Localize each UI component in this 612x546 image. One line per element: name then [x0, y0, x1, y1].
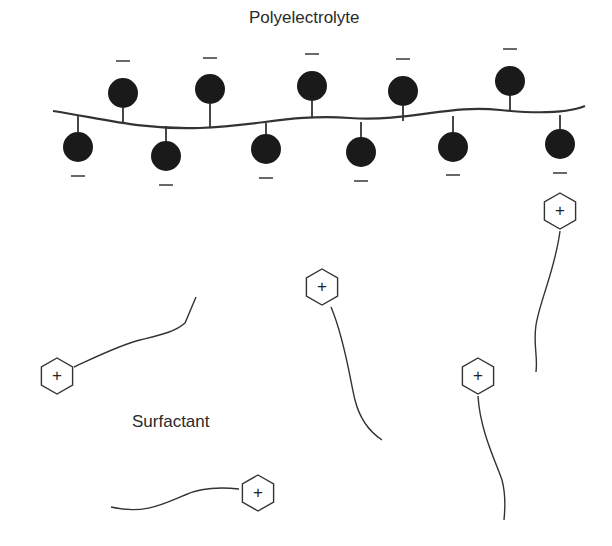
charged-bead	[151, 126, 181, 185]
charged-bead	[63, 116, 93, 176]
charged-bead	[297, 54, 327, 118]
charged-bead	[545, 115, 575, 173]
surfactant-molecules: +++++	[41, 193, 575, 520]
hydrophobic-tail	[74, 297, 196, 367]
positive-charge-icon: +	[555, 201, 565, 220]
charged-bead	[346, 122, 376, 181]
positive-charge-icon: +	[52, 366, 62, 385]
charged-bead	[251, 123, 281, 178]
surfactant-molecule: +	[306, 269, 382, 440]
polyelectrolyte-surfactant-diagram: +++++	[0, 0, 612, 546]
surfactant-molecule: +	[111, 475, 274, 511]
hydrophobic-tail	[111, 488, 239, 510]
hydrophobic-tail	[331, 307, 382, 440]
surfactant-molecule: +	[535, 193, 576, 372]
charged-bead	[438, 116, 468, 175]
charged-bead	[495, 49, 525, 110]
charged-bead	[388, 59, 418, 121]
hydrophobic-tail	[478, 396, 505, 520]
positive-charge-icon: +	[317, 277, 327, 296]
surfactant-molecule: +	[462, 358, 504, 520]
hydrophobic-tail	[535, 231, 560, 372]
charged-bead	[108, 61, 138, 122]
charged-bead	[195, 58, 225, 128]
polymer-backbone	[53, 106, 585, 128]
positive-charge-icon: +	[473, 366, 483, 385]
surfactant-molecule: +	[41, 297, 196, 394]
positive-charge-icon: +	[253, 483, 263, 502]
polyelectrolyte-label: Polyelectrolyte	[249, 8, 360, 28]
surfactant-label: Surfactant	[132, 412, 210, 432]
